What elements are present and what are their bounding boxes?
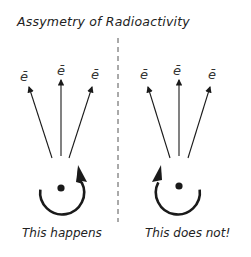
electron-label: ē [208,68,216,81]
left-electron-arrows [29,80,92,158]
electron-label: ē [173,64,181,77]
electron-label: ē [20,70,28,83]
right-rotation-arrow-icon [152,165,201,218]
electron-label: ē [57,64,65,77]
right-caption: This does not! [145,226,230,240]
left-caption: This happens [22,226,102,240]
electron-label: ē [140,68,148,81]
right-electron-arrows [148,80,210,158]
electron-label: ē [91,68,99,81]
left-rotation-arrow-icon [39,165,87,218]
diagram-canvas [0,0,251,257]
